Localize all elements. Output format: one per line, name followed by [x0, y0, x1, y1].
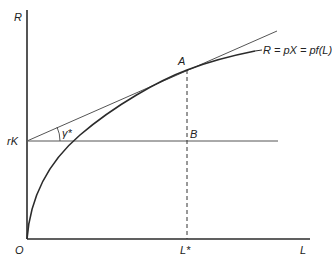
curve-label: R = pX = pf(L) — [263, 44, 332, 56]
angle-arc — [57, 127, 60, 141]
rk-label: rK — [7, 135, 19, 147]
diagram: R L O rK γ* A B L* R = pX = pf(L) — [0, 0, 332, 261]
point-a-label: A — [177, 55, 185, 67]
l-star-label: L* — [180, 244, 191, 256]
angle-label: γ* — [62, 127, 73, 139]
curve-leader — [255, 50, 262, 51]
origin-label: O — [15, 244, 24, 256]
point-b-label: B — [190, 128, 197, 140]
x-axis-label: L — [300, 244, 306, 256]
y-axis-label: R — [14, 11, 22, 23]
revenue-curve — [27, 51, 255, 239]
